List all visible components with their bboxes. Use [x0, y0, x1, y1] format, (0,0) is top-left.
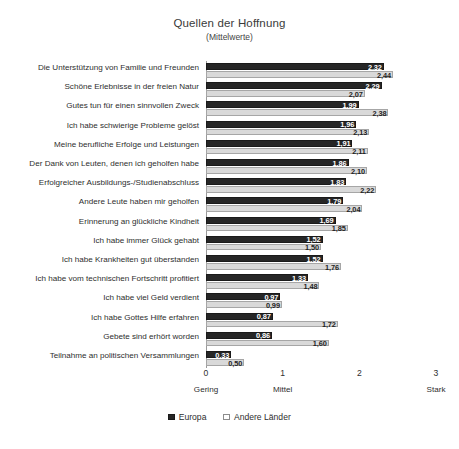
chart-title-block: Quellen der Hoffnung (Mittelwerte) — [0, 16, 459, 43]
bar-andere-laender — [206, 282, 319, 289]
legend-item: Europa — [168, 412, 206, 422]
legend-swatch-andere-laender-icon — [223, 414, 230, 421]
bar-value-andere-laender: 2,11 — [352, 148, 368, 155]
plot-area: Die Unterstützung von Familie und Freund… — [206, 61, 436, 368]
bar-value-andere-laender: 2,10 — [351, 168, 367, 175]
category-label: Gebete sind erhört worden — [10, 331, 206, 342]
category-label: Meine berufliche Erfolge und Leistungen — [10, 139, 206, 150]
bar-europa — [206, 63, 384, 70]
bar-value-andere-laender: 2,44 — [377, 72, 393, 79]
bar-europa — [206, 82, 382, 89]
bar-value-andere-laender: 1,85 — [332, 225, 348, 232]
chart-row: Gutes tun für einen sinnvollen Zweck1,99… — [206, 99, 436, 118]
chart-container: Quellen der Hoffnung (Mittelwerte) Die U… — [0, 0, 459, 449]
x-axis-tick: 1Mittel — [273, 368, 292, 395]
bar-value-andere-laender: 0,50 — [228, 360, 244, 367]
bar-europa — [206, 255, 323, 262]
chart-row: Teilnahme an politischen Versammlungen0,… — [206, 349, 436, 368]
bar-andere-laender — [206, 167, 367, 174]
category-label: Erinnerung an glückliche Kindheit — [10, 216, 206, 227]
bar-value-europa: 2,29 — [366, 83, 382, 90]
x-axis-tick-label: 3 — [434, 368, 439, 378]
x-axis: 0Gering1Mittel23Stark — [206, 368, 436, 408]
bar-andere-laender — [206, 321, 338, 328]
bar-value-andere-laender: 0,99 — [266, 302, 282, 309]
x-axis-anchor-label: Stark — [427, 384, 446, 395]
bar-andere-laender — [206, 263, 341, 270]
chart-row: Ich habe viel Geld verdient0,970,99 — [206, 291, 436, 310]
category-label: Ich habe vom technischen Fortschritt pro… — [10, 273, 206, 284]
chart-row: Andere Leute haben mir geholfen1,792,04 — [206, 195, 436, 214]
category-label: Ich habe immer Glück gehabt — [10, 235, 206, 246]
x-axis-tick-label: 0 — [204, 368, 209, 378]
legend-item: Andere Länder — [223, 412, 290, 422]
chart-row: Erinnerung an glückliche Kindheit1,691,8… — [206, 215, 436, 234]
bar-value-europa: 1,91 — [336, 140, 352, 147]
category-label: Teilnahme an politischen Versammlungen — [10, 350, 206, 361]
chart-row: Schöne Erlebnisse in der freien Natur2,2… — [206, 80, 436, 99]
bar-value-europa: 1,83 — [330, 179, 346, 186]
bar-value-andere-laender: 1,76 — [325, 264, 341, 271]
chart-row: Ich habe schwierige Probleme gelöst1,962… — [206, 119, 436, 138]
chart-row: Ich habe immer Glück gehabt1,521,50 — [206, 234, 436, 253]
bar-europa — [206, 217, 336, 224]
x-axis-tick: 0Gering — [194, 368, 218, 395]
bar-europa — [206, 121, 356, 128]
chart-subtitle: (Mittelwerte) — [0, 31, 459, 43]
x-axis-tick: 2 — [357, 368, 362, 379]
category-label: Ich habe Krankheiten gut überstanden — [10, 254, 206, 265]
bar-value-europa: 1,52 — [307, 256, 323, 263]
category-label: Ich habe Gottes Hilfe erfahren — [10, 312, 206, 323]
x-axis-anchor-label: Gering — [194, 384, 218, 395]
bar-andere-laender — [206, 186, 376, 193]
chart-row: Erfolgreicher Ausbildungs-/Studienabschl… — [206, 176, 436, 195]
bar-andere-laender — [206, 71, 393, 78]
legend-swatch-europa-icon — [168, 414, 175, 421]
bar-value-andere-laender: 2,13 — [353, 129, 369, 136]
bar-value-europa: 1,99 — [343, 102, 359, 109]
category-label: Ich habe viel Geld verdient — [10, 292, 206, 303]
bar-europa — [206, 101, 359, 108]
category-label: Schöne Erlebnisse in der freien Natur — [10, 81, 206, 92]
bar-value-andere-laender: 2,07 — [349, 91, 365, 98]
category-label: Andere Leute haben mir geholfen — [10, 196, 206, 207]
category-label: Der Dank von Leuten, denen ich geholfen … — [10, 158, 206, 169]
bar-value-europa: 1,79 — [327, 198, 343, 205]
bar-value-europa: 0,87 — [257, 313, 273, 320]
chart-row: Der Dank von Leuten, denen ich geholfen … — [206, 157, 436, 176]
bar-andere-laender — [206, 205, 362, 212]
x-axis-tick: 3Stark — [427, 368, 446, 395]
bar-value-andere-laender: 2,38 — [372, 110, 388, 117]
bar-andere-laender — [206, 225, 348, 232]
bar-europa — [206, 140, 352, 147]
bar-andere-laender — [206, 109, 388, 116]
chart-title: Quellen der Hoffnung — [0, 16, 459, 30]
chart-row: Meine berufliche Erfolge und Leistungen1… — [206, 138, 436, 157]
bar-europa — [206, 159, 349, 166]
bar-europa — [206, 197, 343, 204]
bar-andere-laender — [206, 129, 369, 136]
x-axis-tick-label: 1 — [280, 368, 285, 378]
bar-andere-laender — [206, 340, 329, 347]
bar-value-europa: 1,86 — [333, 160, 349, 167]
bar-value-andere-laender: 1,72 — [322, 321, 338, 328]
legend-label: Europa — [179, 412, 207, 422]
bar-value-andere-laender: 2,22 — [360, 187, 376, 194]
bar-andere-laender — [206, 90, 365, 97]
category-label: Gutes tun für einen sinnvollen Zweck — [10, 100, 206, 111]
category-label: Ich habe schwierige Probleme gelöst — [10, 120, 206, 131]
bar-europa — [206, 236, 323, 243]
x-axis-tick-label: 2 — [357, 368, 362, 378]
bar-europa — [206, 178, 346, 185]
bar-andere-laender — [206, 244, 321, 251]
bar-value-europa: 0,86 — [256, 332, 272, 339]
category-label: Erfolgreicher Ausbildungs-/Studienabschl… — [10, 177, 206, 188]
bar-value-andere-laender: 1,60 — [313, 340, 329, 347]
bar-value-andere-laender: 1,50 — [305, 244, 321, 251]
x-axis-anchor-label: Mittel — [273, 384, 292, 395]
chart-legend: EuropaAndere Länder — [0, 412, 459, 422]
legend-label: Andere Länder — [234, 412, 291, 422]
chart-row: Ich habe Krankheiten gut überstanden1,52… — [206, 253, 436, 272]
category-label: Die Unterstützung von Familie und Freund… — [10, 62, 206, 73]
chart-row: Ich habe Gottes Hilfe erfahren0,871,72 — [206, 311, 436, 330]
